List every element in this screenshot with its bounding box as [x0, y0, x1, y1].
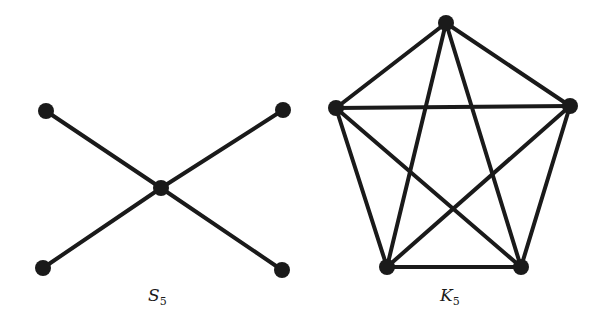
graph-vertex	[328, 100, 344, 116]
k5-label-name: K	[440, 285, 453, 305]
graph-vertex	[438, 15, 454, 31]
graph-edge	[161, 188, 282, 270]
graph-edge	[446, 23, 570, 106]
s5-label: S5	[148, 285, 167, 308]
graph-edge	[336, 108, 521, 267]
graph-vertex	[35, 260, 51, 276]
graph-vertex	[562, 98, 578, 114]
graph-canvas	[0, 0, 602, 327]
k5-label-subscript: 5	[453, 295, 460, 308]
graph-vertex	[153, 180, 169, 196]
k5-label: K5	[440, 285, 460, 308]
graph-edge	[336, 106, 570, 108]
complete-graph-k5	[328, 15, 578, 275]
s5-label-subscript: 5	[160, 295, 167, 308]
graph-vertex	[274, 262, 290, 278]
graph-vertex	[513, 259, 529, 275]
graph-edge	[46, 111, 161, 188]
graph-vertex	[379, 259, 395, 275]
graph-edge	[161, 110, 283, 188]
s5-label-name: S	[148, 285, 160, 305]
graph-vertex	[275, 102, 291, 118]
graph-edge	[446, 23, 521, 267]
graph-vertex	[38, 103, 54, 119]
graph-edge	[43, 188, 161, 268]
star-graph-s5	[35, 102, 291, 278]
